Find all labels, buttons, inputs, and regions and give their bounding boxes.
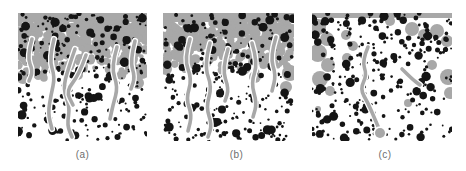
- panel-b-label: (b): [171, 149, 302, 161]
- panel-a-label: (a): [18, 149, 147, 161]
- panel-b: (b): [163, 13, 294, 141]
- panel-c: (c): [312, 13, 452, 141]
- panel-c-label: (c): [315, 149, 455, 161]
- simulation-snapshot-a-image: [18, 13, 147, 141]
- figure-three-panel-simulation: (a) (b) (c): [0, 0, 466, 171]
- simulation-snapshot-c-image: [312, 13, 452, 141]
- simulation-snapshot-b-image: [163, 13, 294, 141]
- panel-a: (a): [18, 13, 147, 141]
